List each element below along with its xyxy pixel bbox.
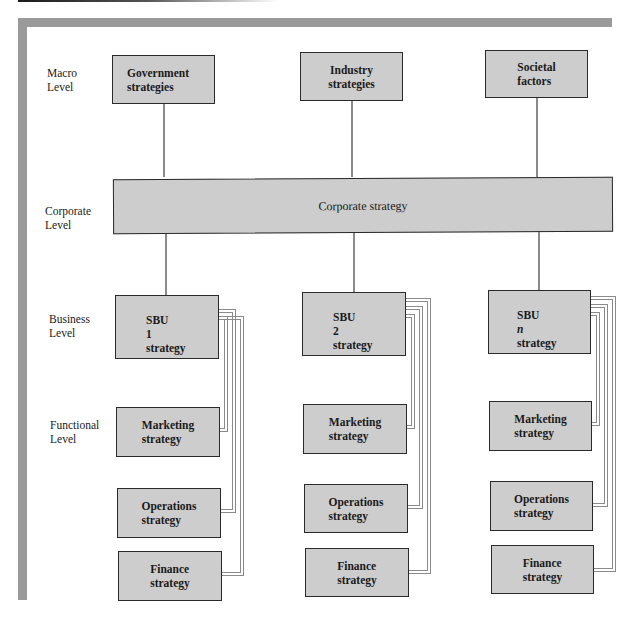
- box-text: factors: [517, 74, 555, 88]
- connector-industry-corporate: [351, 101, 353, 177]
- box-sbun-strategy: SBU n strategy: [488, 290, 591, 354]
- box-operations-strategy-n: Operationsstrategy: [490, 481, 593, 531]
- box-text: Operations: [514, 492, 569, 506]
- sbu-number: 1: [146, 327, 212, 341]
- box-text: Finance: [337, 559, 377, 573]
- box-text: Government: [127, 66, 208, 80]
- box-text: Industry: [328, 63, 375, 77]
- box-text: Marketing: [329, 415, 381, 429]
- connector-sbu1-finance: [218, 316, 244, 576]
- level-label-line: Macro: [47, 66, 77, 80]
- box-text: strategy: [142, 432, 194, 446]
- level-label-corporate: Corporate Level: [45, 204, 91, 232]
- level-label-macro: Macro Level: [47, 66, 77, 94]
- box-text: strategy: [523, 570, 563, 584]
- box-marketing-strategy-2: Marketingstrategy: [303, 404, 407, 454]
- box-text: strategy: [517, 336, 584, 350]
- level-label-line: Level: [49, 326, 90, 340]
- box-sbu2-strategy: SBU 2 strategy: [302, 292, 406, 356]
- box-government-strategies: Government strategies: [112, 55, 215, 104]
- box-text: strategies: [127, 80, 208, 94]
- level-label-functional: Functional Level: [50, 418, 99, 446]
- box-text: strategy: [142, 513, 197, 527]
- level-label-line: Business: [49, 312, 90, 326]
- sbu-prefix: SBU: [146, 313, 212, 327]
- connector-government-corporate: [163, 104, 165, 177]
- connector-corporate-sbu2: [353, 230, 355, 292]
- box-text: strategies: [328, 77, 375, 91]
- box-text: Corporate strategy: [318, 199, 407, 213]
- sbu-title: SBU n: [517, 308, 584, 336]
- box-text: Marketing: [142, 418, 194, 432]
- box-operations-strategy-2: Operationsstrategy: [304, 484, 408, 533]
- box-text: Finance: [150, 562, 190, 576]
- level-label-business: Business Level: [49, 312, 90, 340]
- level-label-line: Functional: [50, 418, 99, 432]
- box-text: strategy: [329, 429, 381, 443]
- box-marketing-strategy-1: Marketingstrategy: [116, 407, 220, 457]
- sbu-number: 2: [333, 324, 399, 338]
- level-label-line: Level: [45, 218, 91, 232]
- box-text: strategy: [146, 341, 212, 355]
- connector-sbun-finance: [590, 296, 616, 572]
- connector-societal-corporate: [536, 98, 538, 177]
- box-text: Finance: [523, 556, 563, 570]
- sbu-prefix: SBU: [333, 310, 399, 324]
- connector-corporate-sbun: [538, 228, 540, 290]
- box-industry-strategies: Industry strategies: [300, 52, 403, 101]
- connector-corporate-sbu1: [165, 232, 167, 295]
- box-text: Societal: [517, 60, 555, 74]
- level-label-line: Level: [47, 80, 77, 94]
- box-text: Marketing: [514, 412, 566, 426]
- box-text: strategy: [329, 509, 384, 523]
- connector-sbu2-finance: [405, 298, 431, 574]
- frame-left-bar: [18, 18, 27, 600]
- box-text: Operations: [142, 499, 197, 513]
- box-operations-strategy-1: Operationsstrategy: [117, 488, 221, 538]
- box-marketing-strategy-n: Marketingstrategy: [489, 401, 592, 451]
- box-corporate-strategy: Corporate strategy: [113, 177, 613, 235]
- box-text: strategy: [333, 338, 399, 352]
- sbu-number: n: [517, 323, 523, 335]
- frame-top-bar: [18, 18, 612, 27]
- box-finance-strategy-2: Financestrategy: [305, 548, 409, 597]
- top-rule: [18, 0, 278, 2]
- sbu-title: SBU 2: [333, 310, 399, 338]
- box-text: strategy: [514, 506, 569, 520]
- box-societal-factors: Societal factors: [485, 50, 588, 98]
- box-text: strategy: [514, 426, 566, 440]
- level-label-line: Corporate: [45, 204, 91, 218]
- box-finance-strategy-n: Financestrategy: [491, 545, 594, 594]
- box-finance-strategy-1: Financestrategy: [118, 551, 222, 601]
- box-text: Operations: [329, 495, 384, 509]
- level-label-line: Level: [50, 432, 99, 446]
- box-text: strategy: [150, 576, 190, 590]
- box-sbu1-strategy: SBU 1 strategy: [115, 295, 219, 359]
- sbu-title: SBU 1: [146, 313, 212, 341]
- box-text: strategy: [337, 573, 377, 587]
- sbu-prefix: SBU: [517, 308, 584, 322]
